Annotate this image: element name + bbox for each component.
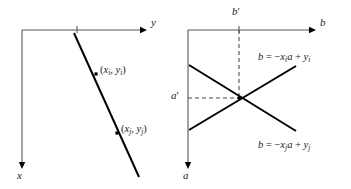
parameter-intersection-dot	[237, 96, 241, 100]
left-point-i-label: (xi, yi)	[100, 65, 126, 76]
b-prime-mark: ′	[238, 5, 240, 17]
left-point-j-label: (xj, yj)	[121, 124, 147, 135]
b-prime-label: b′	[232, 6, 240, 17]
left-x-axis-label: x	[17, 170, 22, 181]
eq-sign: =	[263, 51, 274, 62]
paren-close: )	[122, 64, 126, 75]
left-point-j-dot	[115, 131, 118, 134]
a-prime-label: a′	[171, 90, 179, 101]
right-b-axis-arrowhead	[309, 27, 316, 33]
eq-const-subscript: i	[308, 55, 310, 64]
left-point-line	[74, 33, 139, 177]
figure-root: y x (xi, yi) (xj, yj) b a b′ a′ b = −xia…	[0, 0, 351, 189]
right-a-axis-arrowhead	[185, 162, 191, 169]
left-y-axis-arrowhead	[140, 27, 147, 33]
a-prime-mark: ′	[177, 89, 179, 101]
eq-sign: =	[263, 139, 274, 150]
left-panel-group	[19, 26, 147, 177]
left-y-axis-label: y	[151, 17, 156, 28]
equation-line-j: b = −xja + yj	[258, 140, 310, 151]
right-b-axis-label: b	[320, 17, 326, 28]
paren-close: )	[143, 123, 147, 134]
eq-const-subscript: j	[308, 143, 310, 152]
eq-plus: +	[292, 139, 303, 150]
left-x-axis-arrowhead	[19, 162, 25, 169]
right-a-axis-label: a	[183, 170, 189, 181]
equation-line-i: b = −xia + yi	[258, 52, 310, 63]
eq-plus: +	[292, 51, 303, 62]
left-point-i-dot	[94, 72, 97, 75]
